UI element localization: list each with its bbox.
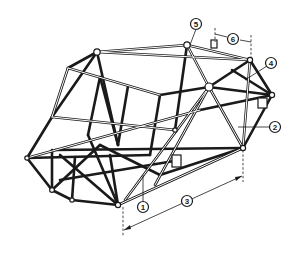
callout-2: 2 (270, 122, 281, 133)
callout-5: 5 (191, 19, 202, 30)
callout-6: 6 (228, 34, 239, 45)
callout-1: 1 (138, 202, 149, 213)
callout-4: 4 (266, 58, 277, 69)
svg-text:3: 3 (185, 197, 190, 206)
chassis-frame-drawing: 1 2 3 4 5 6 (0, 0, 298, 253)
svg-text:6: 6 (231, 35, 236, 44)
frame-tubes (25, 40, 275, 208)
callout-3: 3 (182, 196, 193, 207)
svg-text:5: 5 (194, 20, 199, 29)
svg-text:1: 1 (141, 203, 146, 212)
frame-diagram: 1 2 3 4 5 6 (0, 0, 298, 253)
svg-text:4: 4 (269, 59, 274, 68)
svg-text:2: 2 (273, 123, 278, 132)
